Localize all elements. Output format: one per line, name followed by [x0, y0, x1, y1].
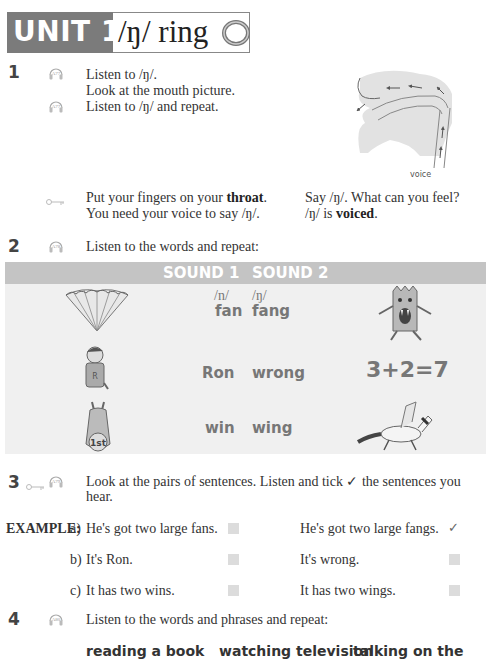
headphones-icon: A77	[48, 98, 64, 114]
header-sound-2: SOUND 2	[252, 262, 328, 284]
exercise-number-3: 3	[8, 472, 20, 492]
sentence-a-right: He's got two large fangs.	[300, 521, 439, 536]
sentence-b-right: It's wrong.	[300, 552, 359, 567]
phrase-2: watching television	[219, 643, 373, 659]
sentence-a-left: He's got two large fans.	[86, 521, 218, 536]
header-sound-1: SOUND 1	[163, 262, 239, 284]
tip-right-1: Say /ŋ/. What can you feel?	[305, 190, 459, 205]
exercise-number-1: 1	[8, 62, 20, 82]
headphones-icon: A79	[48, 473, 64, 489]
ex4-instruction: Listen to the words and phrases and repe…	[86, 612, 328, 627]
sentence-c-left: It has two wins.	[86, 583, 175, 598]
row-letter-b: b)	[70, 552, 82, 567]
checkbox-a-left[interactable]	[228, 523, 239, 534]
tip-left-2: You need your voice to say /ŋ/.	[86, 206, 260, 221]
svg-text:A78: A78	[52, 244, 61, 249]
headphones-icon: A77	[48, 65, 64, 81]
audio-track-a78[interactable]: A78	[48, 238, 64, 258]
tip-left-1: Put your fingers on your throat.	[86, 190, 267, 205]
phrase-3: talking on the phone	[353, 643, 486, 660]
exercise-number-4: 4	[8, 609, 20, 629]
svg-text:1st: 1st	[90, 438, 107, 448]
voice-label: voice	[410, 170, 431, 179]
monster-fang-illustration	[373, 286, 438, 341]
audio-track-a80[interactable]: A80	[48, 611, 64, 631]
row-letter-a: a)	[70, 521, 81, 536]
ring-icon	[222, 19, 250, 51]
ex1-line-1: Listen to /ŋ/.	[86, 67, 157, 82]
checkbox-b-right[interactable]	[449, 554, 460, 565]
svg-text:A80: A80	[52, 617, 61, 622]
horse-winner-illustration: 1st	[80, 400, 116, 455]
word-ron: Ron	[202, 364, 235, 382]
audio-track-a77-repeat[interactable]: A77	[48, 98, 64, 118]
svg-text:R: R	[92, 372, 98, 381]
headphones-icon: A80	[48, 611, 64, 627]
checkbox-a-right-checked[interactable]: ✓	[448, 520, 459, 535]
word-wing: wing	[252, 419, 292, 437]
exercise-number-2: 2	[8, 236, 20, 256]
word-fan: fan	[215, 302, 242, 320]
unit-title: /ŋ/ ring	[118, 12, 208, 52]
svg-text:A77: A77	[52, 71, 61, 76]
headphones-icon: A78	[48, 238, 64, 254]
word-fang: fang	[252, 302, 290, 320]
checkbox-c-left[interactable]	[228, 585, 239, 596]
mouth-diagram	[340, 68, 470, 173]
key-icon	[26, 476, 46, 495]
ex1-line-3: Listen to /ŋ/ and repeat.	[86, 99, 219, 114]
tip-right-2: /ŋ/ is voiced.	[305, 206, 378, 221]
winged-horse-illustration	[356, 398, 441, 453]
wrong-sum-illustration: 3+2=7	[366, 357, 449, 382]
phrase-1: reading a book	[86, 643, 204, 659]
sentence-b-left: It's Ron.	[86, 552, 133, 567]
boy-ron-illustration: R	[80, 345, 110, 400]
word-win: win	[205, 419, 235, 437]
svg-text:A77: A77	[52, 104, 61, 109]
word-wrong: wrong	[252, 364, 305, 382]
ex3-instruction: Look at the pairs of sentences. Listen a…	[86, 474, 486, 504]
checkbox-b-left[interactable]	[228, 554, 239, 565]
audio-track-a79[interactable]: A79	[48, 473, 64, 493]
ex2-instruction: Listen to the words and repeat:	[86, 239, 259, 254]
ex1-line-2: Look at the mouth picture.	[86, 83, 235, 98]
svg-text:A79: A79	[52, 479, 61, 484]
checkbox-c-right[interactable]	[449, 585, 460, 596]
key-icon	[46, 191, 66, 210]
sound-table-header	[5, 262, 486, 284]
fan-illustration	[62, 287, 132, 335]
audio-track-a77[interactable]: A77	[48, 65, 64, 85]
row-letter-c: c)	[70, 583, 81, 598]
sentence-c-right: It has two wings.	[300, 583, 396, 598]
